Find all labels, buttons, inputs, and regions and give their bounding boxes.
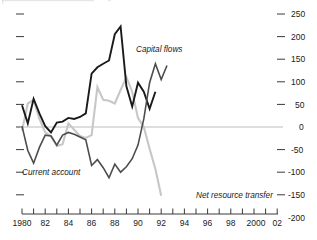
- xtick-label-02: 02: [272, 218, 282, 228]
- xtick-label-88: 88: [110, 218, 120, 228]
- ytick-label-50: 50: [295, 100, 305, 110]
- xtick-label-98: 98: [226, 218, 236, 228]
- ytick-label-250: 250: [291, 9, 305, 19]
- ytick-label-neg50: -50: [291, 145, 304, 155]
- top-crop-artifact: [2, 0, 111, 4]
- xtick-label-2000: 2000: [247, 218, 266, 228]
- bottom-axis-labels: 1980 82 84 86 88 90 92 94 96 98 2000 02: [13, 218, 283, 228]
- xtick-label-82: 82: [40, 218, 50, 228]
- ytick-label-100: 100: [291, 77, 305, 87]
- xtick-label-1980: 1980: [13, 218, 32, 228]
- xtick-label-84: 84: [64, 218, 74, 228]
- chart-canvas: 250 200 150 100 50 0 -50 -100 -150 -200: [0, 0, 317, 240]
- xtick-label-90: 90: [133, 218, 143, 228]
- right-axis-ticks: [277, 14, 285, 195]
- ytick-label-neg150: -150: [288, 190, 305, 200]
- xtick-label-94: 94: [180, 218, 190, 228]
- annotation-current-account: Current account: [22, 168, 81, 177]
- series-line-capital-flows: [22, 27, 155, 133]
- ytick-label-0: 0: [299, 122, 304, 132]
- ytick-label-200: 200: [291, 32, 305, 42]
- economic-flows-line-chart: 250 200 150 100 50 0 -50 -100 -150 -200: [0, 0, 317, 240]
- ytick-label-150: 150: [291, 54, 305, 64]
- xtick-label-96: 96: [203, 218, 213, 228]
- ytick-label-neg200: -200: [288, 213, 305, 223]
- annotation-capital-flows: Capital flows: [136, 45, 182, 54]
- xtick-label-92: 92: [156, 218, 166, 228]
- ytick-label-neg100: -100: [288, 167, 305, 177]
- bottom-axis: [22, 209, 278, 215]
- xtick-label-86: 86: [87, 218, 97, 228]
- right-axis-labels: 250 200 150 100 50 0 -50 -100 -150 -200: [288, 9, 305, 222]
- annotation-net-resource-transfer: Net resource transfer: [196, 191, 273, 200]
